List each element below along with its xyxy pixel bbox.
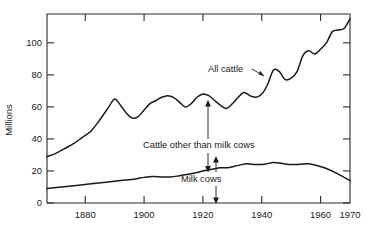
x-axis-tick-labels: 188019001920194019601970	[75, 209, 361, 220]
chart-svg: 020406080100 188019001920194019601970 Mi…	[0, 0, 367, 236]
annotation-label-milk-cows: Milk cows	[181, 174, 222, 184]
gap-arrowhead-up	[205, 100, 211, 106]
y-axis-tick-labels: 020406080100	[26, 37, 42, 208]
annotation-label-all-cattle: All cattle	[208, 64, 243, 74]
leader-arrowhead-all-cattle	[259, 71, 264, 76]
y-tick-label-40: 40	[31, 133, 42, 144]
y-axis-title: Millions	[3, 104, 14, 136]
y-tick-label-80: 80	[31, 69, 42, 80]
series-line-all-cattle	[47, 19, 350, 157]
cattle-population-chart: 020406080100 188019001920194019601970 Mi…	[0, 0, 367, 236]
y-tick-label-0: 0	[37, 197, 42, 208]
x-tick-label-1920: 1920	[192, 209, 213, 220]
y-tick-label-100: 100	[26, 37, 42, 48]
annotation-cattle-other-than-milk-cows: Cattle other than milk cows	[143, 100, 255, 173]
milk-arrowhead-up	[213, 156, 219, 162]
x-tick-label-1880: 1880	[75, 209, 96, 220]
x-tick-label-1900: 1900	[134, 209, 155, 220]
x-tick-label-1960: 1960	[310, 209, 331, 220]
annotation-label-cattle-other-than-milk-cows: Cattle other than milk cows	[143, 140, 255, 150]
annotation-all-cattle: All cattle	[208, 64, 264, 76]
y-tick-label-60: 60	[31, 101, 42, 112]
x-tick-label-1970: 1970	[339, 209, 360, 220]
annotation-milk-cows: Milk cows	[181, 156, 222, 204]
y-tick-label-20: 20	[31, 165, 42, 176]
x-tick-label-1940: 1940	[251, 209, 272, 220]
